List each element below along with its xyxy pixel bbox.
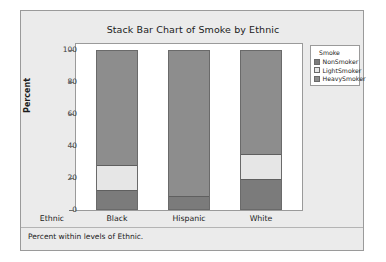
legend-item-nonsmoker[interactable]: NonSmoker (314, 58, 356, 65)
legend-item-lightsmoker[interactable]: LightSmoker (314, 67, 356, 74)
legend-label-lightsmoker: LightSmoker (323, 67, 362, 74)
y-tick-mark-80 (69, 82, 74, 83)
legend-items: NonSmokerLightSmokerHeavySmoker (314, 58, 356, 82)
legend-swatch-heavysmoker (314, 76, 320, 82)
chart-screenshot: Stack Bar Chart of Smoke by Ethnic Perce… (0, 0, 386, 262)
footnote: Percent within levels of Ethnic. (28, 232, 143, 241)
x-axis-row-label: Ethnic (29, 214, 75, 223)
legend: Smoke NonSmokerLightSmokerHeavySmoker (310, 45, 360, 86)
x-axis-label-black: Black (82, 214, 152, 223)
y-tick-mark-100 (69, 50, 74, 51)
y-tick-mark-20 (69, 178, 74, 179)
legend-swatch-lightsmoker (314, 67, 320, 73)
chart-panel: Stack Bar Chart of Smoke by Ethnic Perce… (20, 10, 364, 251)
legend-label-nonsmoker: NonSmoker (323, 58, 359, 65)
legend-item-heavysmoker[interactable]: HeavySmoker (314, 75, 356, 82)
footnote-divider (21, 227, 363, 228)
legend-swatch-nonsmoker (314, 59, 320, 65)
x-axis-label-white: White (226, 214, 296, 223)
y-tick-mark-60 (69, 114, 74, 115)
chart-title: Stack Bar Chart of Smoke by Ethnic (21, 24, 365, 35)
y-tick-mark-40 (69, 146, 74, 147)
x-axis-label-hispanic: Hispanic (154, 214, 224, 223)
plot-area (75, 43, 303, 211)
y-tick-mark-0 (69, 210, 74, 211)
legend-title: Smoke (319, 49, 356, 56)
y-axis-title: Percent (23, 66, 32, 126)
legend-label-heavysmoker: HeavySmoker (323, 75, 366, 82)
